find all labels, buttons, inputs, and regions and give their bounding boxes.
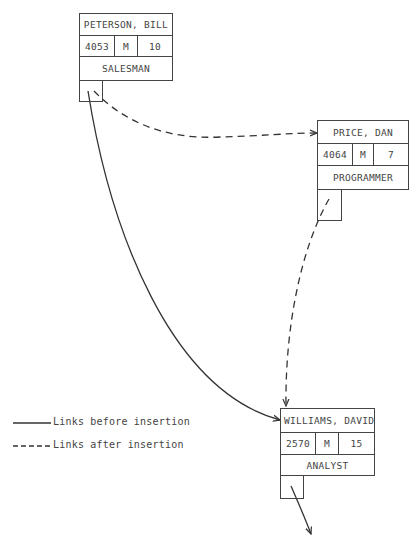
record-id-number: 4064 <box>317 143 353 166</box>
record-years: 7 <box>373 143 409 166</box>
record-sex: M <box>352 143 374 166</box>
record-title: SALESMAN <box>79 56 173 81</box>
record-pointer-field <box>317 189 342 221</box>
record-williams: WILLIAMS, DAVID 2570 M 15 ANALYST <box>280 408 375 499</box>
record-pointer-field <box>280 475 304 499</box>
record-years: 10 <box>137 35 173 57</box>
legend-dashed-label: Links after insertion <box>53 439 184 450</box>
link-price-to-williams-after <box>286 199 329 406</box>
record-title: ANALYST <box>280 454 375 476</box>
record-peterson: PETERSON, BILL 4053 M 10 SALESMAN <box>79 13 173 102</box>
record-name: PRICE, DAN <box>317 120 409 144</box>
record-years: 15 <box>338 432 375 455</box>
record-sex: M <box>315 432 339 455</box>
record-title: PROGRAMMER <box>317 165 409 190</box>
record-name: PETERSON, BILL <box>79 13 173 36</box>
record-sex: M <box>114 35 138 57</box>
record-id-number: 2570 <box>280 432 316 455</box>
record-price: PRICE, DAN 4064 M 7 PROGRAMMER <box>317 120 409 221</box>
record-id-number: 4053 <box>79 35 115 57</box>
record-name: WILLIAMS, DAVID <box>280 408 375 433</box>
record-pointer-field <box>79 80 103 102</box>
link-peterson-to-williams-before <box>88 91 280 420</box>
legend-solid-label: Links before insertion <box>53 416 190 427</box>
